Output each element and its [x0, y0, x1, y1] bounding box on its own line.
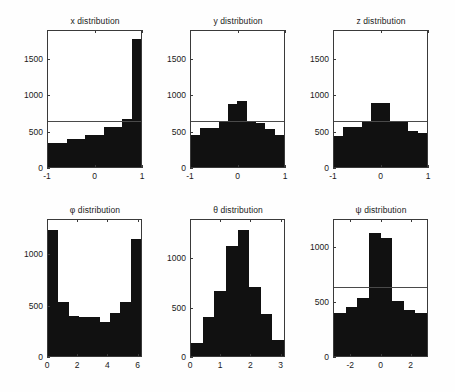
- x-tick-mark-top: [381, 219, 382, 222]
- y-tick-mark: [333, 302, 336, 303]
- y-tick-label: 0: [324, 352, 329, 362]
- histogram-bar: [381, 238, 393, 356]
- histogram-bars: [334, 220, 427, 356]
- plot-area-psi-distribution: [333, 219, 428, 357]
- histogram-bar: [357, 298, 369, 356]
- x-tick-label: -2: [346, 360, 354, 370]
- histogram-bar: [369, 233, 381, 356]
- x-tick-mark: [411, 354, 412, 357]
- x-tick-label: 0: [378, 360, 383, 370]
- y-tick-mark: [333, 247, 336, 248]
- y-tick-label: 500: [315, 297, 329, 307]
- x-tick-label: 2: [408, 360, 413, 370]
- y-tick-mark: [333, 357, 336, 358]
- histogram-bar: [334, 313, 346, 356]
- reference-line: [334, 287, 427, 288]
- histogram-bar: [404, 310, 416, 356]
- histogram-bar: [346, 307, 358, 356]
- x-tick-mark-top: [350, 219, 351, 222]
- histogram-bar: [415, 313, 427, 356]
- x-tick-mark-top: [411, 219, 412, 222]
- histogram-bar: [392, 301, 404, 356]
- y-tick-label: 1000: [310, 242, 329, 252]
- x-tick-mark: [381, 354, 382, 357]
- subplot-psi-distribution: ψ distribution05001000-202: [0, 0, 455, 392]
- x-tick-mark: [350, 354, 351, 357]
- subplot-title-psi-distribution: ψ distribution: [306, 205, 455, 215]
- histogram-figure: x distribution050010001500-101y distribu…: [0, 0, 455, 392]
